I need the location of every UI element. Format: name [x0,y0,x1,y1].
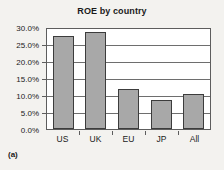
y-axis-label: 30.0% [16,24,39,33]
bar-slot [47,29,80,129]
figure-panel: ROE by country 30.0% 25.0% 20.0% 15.0% 1… [0,0,224,170]
bar-slot [112,29,145,129]
x-axis-label-us: US [46,134,79,144]
bar-uk[interactable] [85,32,106,129]
x-axis: US UK EU JP All [46,134,211,144]
bar-slot [145,29,178,129]
bar-slot [177,29,210,129]
figure-caption: (a) [8,150,18,159]
bar-all[interactable] [183,94,204,129]
bar-slot [80,29,113,129]
plot-area [46,28,211,130]
x-axis-label-jp: JP [145,134,178,144]
x-axis-label-uk: UK [79,134,112,144]
y-axis-label: 15.0% [16,75,39,84]
bar-jp[interactable] [151,100,172,129]
y-axis: 30.0% 25.0% 20.0% 15.0% 10.0% 5.0% 0.0% [0,0,43,170]
bar-us[interactable] [53,36,74,129]
y-axis-label: 20.0% [16,58,39,67]
y-axis-label: 0.0% [21,126,39,135]
x-axis-label-eu: EU [112,134,145,144]
bar-eu[interactable] [118,89,139,129]
y-axis-label: 25.0% [16,41,39,50]
x-axis-label-all: All [178,134,211,144]
bar-series [47,29,210,129]
y-axis-label: 10.0% [16,92,39,101]
y-axis-label: 5.0% [21,109,39,118]
